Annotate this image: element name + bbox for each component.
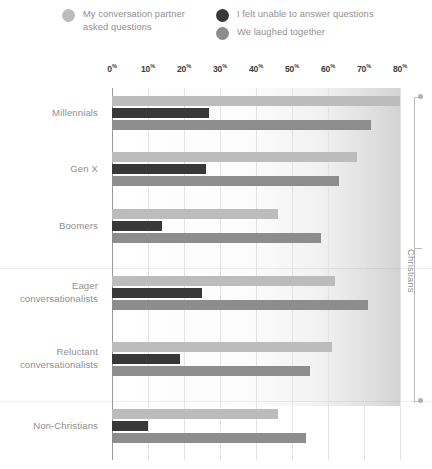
legend-dot-icon [216, 27, 229, 40]
chart-plot-area [112, 88, 400, 460]
category-label: Boomers [0, 220, 98, 233]
category-label: Gen X [0, 163, 98, 176]
bar-group [112, 96, 400, 130]
x-tick-label: 50% [285, 63, 299, 74]
gridline [220, 88, 221, 460]
bar [112, 221, 162, 231]
y-axis-line [112, 88, 113, 460]
x-axis-tick-labels: 0%10%20%30%40%50%60%70%80% [0, 58, 432, 88]
bar [112, 433, 306, 443]
bar [112, 209, 278, 219]
gridline [184, 88, 185, 460]
x-tick-label: 30% [213, 63, 227, 74]
x-tick-label: 60% [321, 63, 335, 74]
gridline [364, 88, 365, 460]
christians-bracket: Christians [408, 93, 432, 405]
category-label: Millennials [0, 107, 98, 120]
x-tick-label: 70% [357, 63, 371, 74]
chart-legend: My conversation partner asked questions … [0, 0, 432, 58]
bar-group [112, 209, 400, 243]
x-tick-label: 10% [141, 63, 155, 74]
bar-group [112, 409, 400, 443]
legend-label: My conversation partner asked questions [83, 8, 185, 33]
gridline [256, 88, 257, 460]
bar [112, 409, 278, 419]
legend-label: I felt unable to answer questions [237, 8, 374, 21]
gridline [292, 88, 293, 460]
category-label: Eager conversationalists [0, 280, 98, 305]
legend-label: We laughed together [237, 26, 325, 39]
bar [112, 120, 371, 130]
x-tick-label: 0% [107, 63, 116, 74]
category-axis-labels: MillennialsGen XBoomersEager conversatio… [0, 88, 104, 460]
bracket-endpoint-dot-icon [418, 94, 423, 99]
bracket-endpoint-dot-icon [418, 398, 423, 403]
bracket-label: Christians [406, 249, 417, 293]
bar [112, 342, 332, 352]
category-label: Non-Christians [0, 420, 98, 433]
bar [112, 288, 202, 298]
bar [112, 233, 321, 243]
bar [112, 276, 335, 286]
category-label: Reluctant conversationalists [0, 346, 98, 371]
bar [112, 152, 357, 162]
bar-group [112, 342, 400, 376]
legend-dot-icon [216, 9, 229, 22]
bar-group [112, 276, 400, 310]
bar [112, 108, 209, 118]
legend-dot-icon [62, 9, 75, 22]
gridline [328, 88, 329, 460]
legend-item-unable-to-answer: I felt unable to answer questions [216, 8, 428, 22]
bar [112, 164, 206, 174]
x-tick-label: 80% [393, 63, 407, 74]
gridline [400, 88, 401, 460]
bar [112, 300, 368, 310]
bar [112, 96, 400, 106]
gridline [148, 88, 149, 460]
x-tick-label: 40% [249, 63, 263, 74]
bar [112, 354, 180, 364]
bar [112, 366, 310, 376]
bar [112, 176, 339, 186]
bar [112, 421, 148, 431]
legend-item-laughed-together: We laughed together [216, 26, 428, 40]
legend-item-partner-asked: My conversation partner asked questions [62, 8, 212, 33]
x-tick-label: 20% [177, 63, 191, 74]
bar-group [112, 152, 400, 186]
